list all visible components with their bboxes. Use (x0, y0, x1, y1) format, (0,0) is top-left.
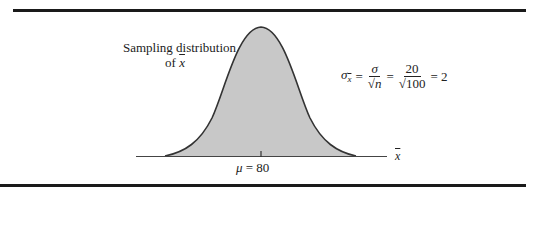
mean-label: μ = 80 (236, 160, 269, 175)
result-value: = 2 (430, 69, 447, 84)
fraction-denominator: √100 (398, 77, 427, 91)
fraction-numerator: σ (369, 62, 379, 77)
fraction-20-over-root-100: 20 √100 (398, 62, 427, 91)
distribution-label-line1: Sampling distribution (123, 40, 236, 55)
fraction-sigma-over-root-n: σ √n (367, 62, 383, 91)
equals-sign: = (355, 69, 362, 84)
equals-sign: = (386, 69, 393, 84)
sigma-xbar: σx (341, 67, 351, 87)
xbar-subscript: x (347, 74, 351, 84)
bottom-rule (0, 184, 526, 187)
xbar-symbol: x (179, 55, 185, 70)
x-axis-label: x (395, 149, 400, 164)
fraction-denominator: √n (367, 77, 383, 91)
of-text: of (165, 55, 179, 70)
n-symbol: n (375, 76, 382, 91)
sqrt-icon: √ (368, 76, 375, 91)
xbar-symbol: x (395, 149, 400, 163)
mean-value: = 80 (243, 160, 270, 175)
distribution-label: Sampling distribution of x (123, 40, 227, 70)
distribution-label-line2: of x (123, 55, 227, 70)
standard-error-formula: σx = σ √n = 20 √100 = 2 (341, 62, 447, 91)
fraction-numerator: 20 (404, 62, 421, 77)
